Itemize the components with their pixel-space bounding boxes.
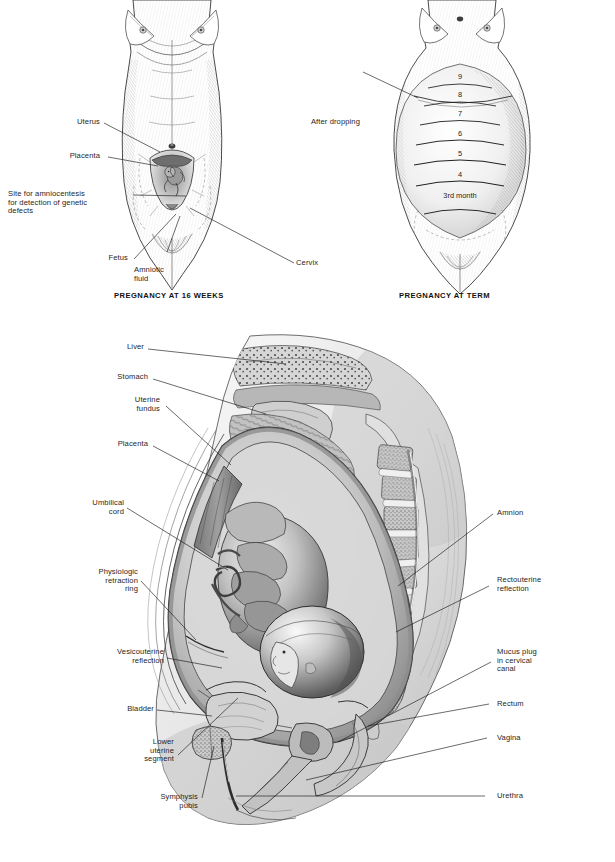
figure-sagittal-section-term: Liver Stomach Uterine fundus Placenta Um… [0,318,615,862]
label-uterine-fundus: Uterine fundus [78,396,160,413]
label-symphysis-pubis: Symphysis pubis [128,793,198,810]
label-placenta: Placenta [20,152,100,161]
caption-pregnancy-16-weeks: PREGNANCY AT 16 WEEKS [114,291,224,300]
label-amnion: Amnion [497,509,567,518]
fetal-head [260,606,364,698]
fundal-height-month-9: 9 [446,72,474,81]
torso-16-weeks-illustration [0,0,330,300]
fundal-height-month-6: 6 [446,129,474,138]
label-physiologic-retraction-ring: Physiologic retraction ring [62,568,138,594]
label-lower-uterine-segment: Lower uterine segment [104,738,174,764]
label-placenta: Placenta [78,440,148,449]
label-stomach: Stomach [70,373,148,382]
fundal-height-month-8: 8 [446,90,474,99]
maternal-body [130,328,510,862]
label-rectouterine-reflection: Rectouterine reflection [497,576,579,593]
fundal-height-month-5: 5 [446,149,474,158]
fundal-height-month-3: 3rd month [440,192,480,200]
fundal-height-month-4: 4 [446,170,474,179]
label-umbilical-cord: Umbilical cord [58,499,124,516]
label-fetus: Fetus [62,254,128,263]
caption-pregnancy-at-term: PREGNANCY AT TERM [399,291,490,300]
fundal-height-month-7: 7 [446,109,474,118]
figure-pregnancy-16-weeks: Uterus Placenta Site for amniocentesis f… [0,0,330,310]
label-amniotic-fluid: Amniotic fluid [134,266,194,283]
label-urethra: Urethra [497,792,557,801]
cervix-and-mucus-plug [289,723,333,762]
label-rectum: Rectum [497,700,557,709]
label-bladder: Bladder [92,705,154,714]
label-site-for-amniocentesis: Site for amniocentesis for detection of … [8,190,133,216]
label-uterus: Uterus [20,118,100,127]
figure-pregnancy-at-term: After dropping 9 8 7 6 5 4 3rd month PRE… [320,0,615,310]
label-vagina: Vagina [497,734,557,743]
label-mucus-plug-in-cervical-canal: Mucus plug in cervical canal [497,648,577,674]
label-liver: Liver [76,343,144,352]
torso-outline [110,0,240,300]
label-vesicouterine-reflection: Vesicouterine reflection [74,648,164,665]
label-after-dropping: After dropping [278,118,360,127]
